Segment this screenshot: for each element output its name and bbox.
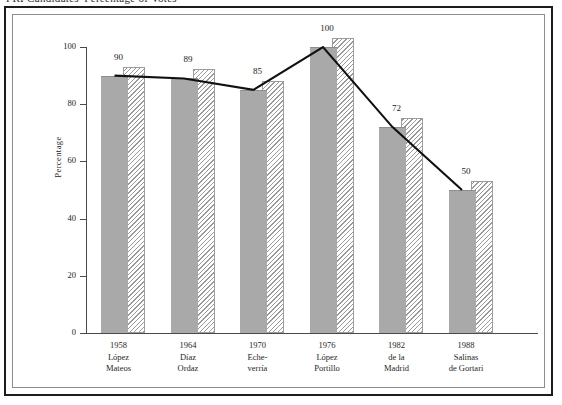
figure-caption-text: PRI Candidates' Percentage of Votes bbox=[6, 0, 177, 4]
figure-inner-border bbox=[12, 14, 545, 388]
